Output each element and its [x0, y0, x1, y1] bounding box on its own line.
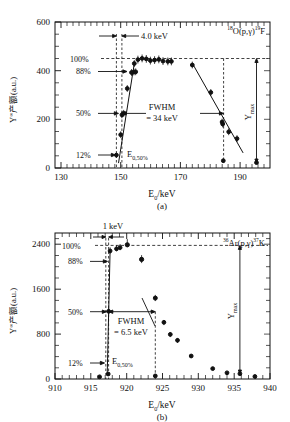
- panel-b-arrow-50: [90, 310, 107, 313]
- panel-a-beamwidth-label: 4.0 keV: [141, 31, 169, 41]
- panel-a-xtitle-unit: /keV: [157, 189, 176, 199]
- panel-b-beamwidth-label: 1 keV: [103, 221, 124, 231]
- panel-a-pct-88: 88%: [76, 67, 91, 76]
- panel-b-caption: (b): [157, 412, 168, 422]
- panel-b-xtick-1: 915: [84, 383, 98, 393]
- panel-a-rxn-tail: F: [260, 26, 265, 36]
- panel-a-xtick-3: 190: [233, 172, 247, 182]
- panel-a-arrow-88: [98, 70, 127, 73]
- panel-a-x-minor-ticks: [67, 22, 264, 168]
- panel-b-ymax-sub: max: [232, 303, 238, 313]
- panel-b-ytick-0: 0: [46, 374, 51, 384]
- panel-a-pct-100: 100%: [70, 55, 89, 64]
- panel-b-pct-100: 100%: [62, 242, 81, 251]
- panel-b-xtitle-unit: /keV: [157, 400, 176, 410]
- panel-a: 130 150 170 190: [0, 0, 290, 211]
- panel-a-ymax-sub: max: [249, 104, 255, 114]
- panel-b-pct-88: 88%: [68, 257, 83, 266]
- panel-a-ymax-arrow: [255, 59, 258, 164]
- panel-b-ytitle-cjk: 产额(a.u.): [8, 288, 18, 324]
- panel-b-xtick-3: 925: [156, 383, 170, 393]
- panel-a-x-axis-title: E0/keV: [148, 189, 175, 201]
- panel-b-ymax-label: Ymax: [226, 303, 238, 319]
- panel-a-y-axis-title: Y∞产额(a.u.): [8, 77, 18, 123]
- panel-a-pct-50: 50%: [76, 109, 91, 118]
- panel-a-xtick-1: 150: [114, 172, 128, 182]
- panel-b-pct-12: 12%: [68, 359, 83, 368]
- panel-b-fwhm-label-1: FWHM: [118, 316, 145, 326]
- panel-b-ymax-arrow: [238, 245, 241, 374]
- panel-b-axes: [55, 233, 270, 379]
- panel-b-pct-50: 50%: [68, 308, 83, 317]
- panel-b-xtick-5: 935: [227, 383, 241, 393]
- panel-a-data-points: [115, 55, 259, 165]
- panel-a-e050-sub: 0,50%: [132, 155, 148, 161]
- panel-a-reaction-label: 18O(p,γ)19F: [227, 25, 265, 36]
- panel-a-beamwidth-annotation: [99, 34, 139, 37]
- panel-a-arrow-12: [98, 153, 116, 156]
- panel-b-xtick-4: 930: [192, 383, 206, 393]
- panel-a-caption: (a): [157, 201, 167, 211]
- panel-b-ytick-2: 1600: [32, 284, 51, 294]
- panel-a-plot: 130 150 170 190: [0, 0, 290, 211]
- panel-b-plot: 910 915 920 925 930 935 940: [0, 211, 290, 422]
- panel-a-ytick-2: 400: [37, 66, 51, 76]
- panel-b-reaction-label: 36Ar(p,γ)37K: [223, 237, 266, 248]
- panel-a-e050-label: E0,50%: [127, 149, 148, 161]
- panel-b-ytick-1: 800: [37, 329, 51, 339]
- panel-a-ytick-3: 600: [37, 17, 51, 27]
- panel-a-ytitle-cjk: 产额(a.u.): [8, 77, 18, 113]
- panel-b-rxn-tail: K: [259, 238, 266, 248]
- panel-b-arrow-88: [90, 260, 108, 263]
- panel-b-xtick-2: 920: [120, 383, 134, 393]
- panel-b-rxn-mid: Ar(p,γ): [229, 238, 254, 248]
- panel-b-e050-label: E0,50%: [112, 356, 133, 368]
- panel-a-axes: [55, 22, 270, 168]
- panel-b-ytick-3: 2400: [32, 239, 51, 249]
- panel-a-arrow-50: [98, 112, 119, 115]
- panel-a-ytick-0: 0: [46, 163, 51, 173]
- figure-container: 130 150 170 190: [0, 0, 290, 422]
- panel-a-rxn-mid: O(p,γ): [233, 26, 255, 36]
- panel-b-x-axis-title: E0/keV: [148, 400, 175, 412]
- panel-b-arrow-12: [90, 361, 105, 364]
- panel-b-y-axis-title: Y∞产额(a.u.): [8, 288, 18, 334]
- panel-a-ymax-label: Ymax: [243, 104, 255, 120]
- panel-a-fwhm-label-2: = 34 keV: [146, 113, 179, 123]
- panel-b-fwhm-label-2: = 6.5 keV: [114, 327, 149, 337]
- panel-b-xtick-0: 910: [48, 383, 62, 393]
- panel-b-y-minor-ticks: [55, 239, 270, 368]
- panel-a-xtick-0: 130: [54, 172, 68, 182]
- panel-a-ytick-1: 200: [37, 114, 51, 124]
- panel-a-pct-12: 12%: [76, 151, 91, 160]
- panel-a-fwhm-label-1: FWHM: [149, 102, 176, 112]
- panel-b-xtick-6: 940: [263, 383, 277, 393]
- panel-b-e050-sub: 0,50%: [117, 362, 133, 368]
- panel-b: 910 915 920 925 930 935 940: [0, 211, 290, 422]
- panel-a-xtick-2: 170: [174, 172, 188, 182]
